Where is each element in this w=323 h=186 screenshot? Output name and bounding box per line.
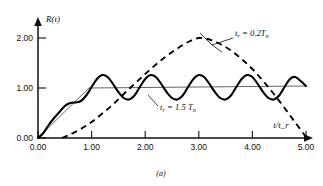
figure-container: 0.00 1.00 2.00 0.00 1.00 2.00 3.00 4.00 … — [0, 0, 323, 186]
y-axis — [34, 17, 42, 138]
x-tick-labels: 0.00 1.00 2.00 3.00 4.00 5.00 — [30, 142, 315, 152]
y-tick-label-2: 2.00 — [16, 33, 33, 43]
y-axis-title: R(t) — [45, 14, 60, 24]
chart-plot: 0.00 1.00 2.00 0.00 1.00 2.00 3.00 4.00 … — [0, 0, 323, 186]
x-tick-label-3: 3.00 — [191, 142, 208, 152]
x-tick-label-0: 0.00 — [30, 142, 47, 152]
annotation-dashed-label: tr = 0.2Tn — [235, 28, 269, 39]
x-tick-marks — [38, 131, 306, 138]
annotation-solid-label: tr = 1.5 Tn — [160, 102, 196, 113]
y-tick-label-1: 1.00 — [16, 83, 33, 93]
x-tick-label-2: 2.00 — [137, 142, 154, 152]
y-tick-marks — [38, 38, 46, 138]
x-axis-title: t/t_r — [273, 120, 289, 130]
figure-caption: (a) — [156, 169, 166, 178]
x-tick-label-1: 1.00 — [83, 142, 100, 152]
x-axis — [38, 134, 313, 142]
x-tick-label-4: 4.00 — [244, 142, 261, 152]
y-axis-arrowhead — [34, 17, 42, 26]
x-tick-label-5: 5.00 — [298, 142, 315, 152]
y-tick-labels: 0.00 1.00 2.00 — [16, 33, 33, 143]
